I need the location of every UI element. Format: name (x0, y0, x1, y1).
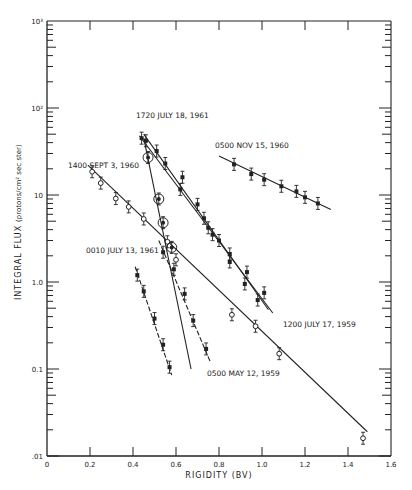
annotation-july17-1959: 1200 JULY 17, 1959 (283, 320, 356, 329)
data-point (232, 162, 236, 166)
data-point (196, 202, 200, 206)
x-tick-label: 1.2 (299, 461, 310, 469)
data-point (170, 245, 174, 249)
data-point (168, 365, 172, 369)
data-point (155, 149, 159, 153)
data-point (153, 317, 157, 321)
data-point (277, 351, 282, 356)
data-point (204, 347, 208, 351)
data-point (90, 169, 95, 174)
data-point (253, 324, 258, 329)
data-point (191, 319, 195, 323)
data-point (161, 221, 165, 225)
data-point (174, 257, 179, 262)
data-point (303, 195, 307, 199)
y-tick-label: 1.0 (32, 279, 43, 287)
y-tick-label: .01 (32, 453, 43, 461)
x-tick-label: 1.0 (256, 461, 267, 469)
y-axis-unit: (protons/cm² sec ster) (15, 144, 23, 222)
data-point (142, 289, 146, 293)
axes: 00.20.40.60.81.01.21.41.6.010.11.01010²1… (31, 18, 397, 469)
data-point (256, 298, 260, 302)
series-0 (219, 156, 331, 209)
data-point (217, 238, 221, 242)
y-tick-label: 0.1 (32, 366, 43, 374)
data-point (206, 226, 210, 230)
data-point (243, 282, 247, 286)
data-point (157, 197, 161, 201)
annotation-may12-1959: 0500 MAY 12, 1959 (207, 369, 280, 378)
data-point (262, 178, 266, 182)
data-point (126, 204, 131, 209)
x-tick-label: 0.2 (84, 461, 95, 469)
series-5 (135, 267, 172, 375)
data-point (140, 136, 144, 140)
data-point (161, 343, 165, 347)
data-point (316, 201, 320, 205)
annotation-july13-1961: 0010 JULY 13, 1961 (86, 246, 159, 255)
annotation-sept3-1960: 1400 SEPT 3, 1960 (68, 161, 139, 170)
x-tick-label: 1.6 (385, 461, 397, 469)
data-point (146, 155, 150, 159)
data-point (163, 162, 167, 166)
annotation-july18-1961: 1720 JULY 18, 1961 (136, 111, 209, 120)
data-point (262, 291, 266, 295)
data-point (361, 436, 366, 441)
data-point (98, 181, 103, 186)
y-tick-label: 10 (34, 192, 43, 200)
data-point (141, 217, 146, 222)
data-point (161, 250, 165, 254)
y-axis-label: INTEGRAL FLUX (14, 225, 23, 300)
data-point (249, 172, 253, 176)
x-tick-label: 0.6 (170, 461, 182, 469)
series-6 (159, 240, 211, 362)
x-tick-label: 0.8 (213, 461, 224, 469)
data-point (135, 273, 139, 277)
y-tick-label: 10³ (31, 18, 43, 26)
x-axis-label: RIGIDITY (BV) (185, 471, 252, 480)
data-point (294, 189, 298, 193)
annotation-nov15-1960: 0500 NOV 15, 1960 (215, 141, 289, 150)
data-point (279, 184, 283, 188)
data-point (183, 292, 187, 296)
data-point (113, 196, 118, 201)
data-point (228, 260, 232, 264)
data-point (180, 175, 184, 179)
data-point (230, 312, 235, 317)
x-tick-label: 0.4 (127, 461, 139, 469)
flux-rigidity-chart: 00.20.40.60.81.01.21.41.6.010.11.01010²1… (0, 0, 412, 490)
data-point (245, 270, 249, 274)
x-tick-label: 0 (45, 461, 49, 469)
plot-area (88, 132, 368, 444)
data-point (172, 267, 176, 271)
x-tick-label: 1.4 (342, 461, 354, 469)
y-tick-label: 10² (31, 105, 43, 113)
data-point (228, 252, 232, 256)
